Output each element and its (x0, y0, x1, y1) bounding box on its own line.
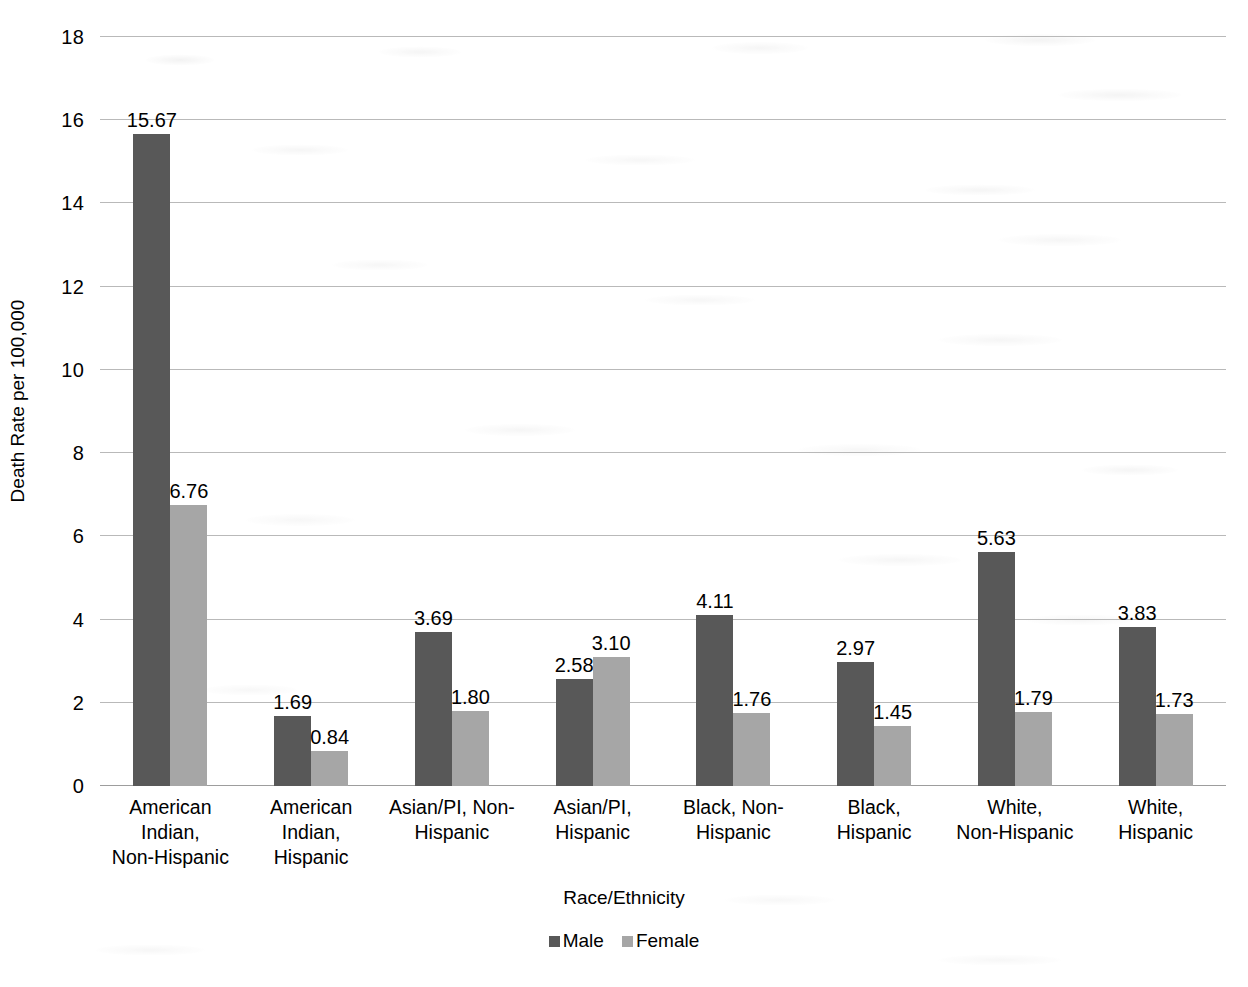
bar-male: 2.58 (556, 679, 593, 786)
chart-legend: MaleFemale (0, 930, 1248, 952)
bar-female: 0.84 (311, 751, 348, 786)
gridline-0 (100, 785, 1226, 786)
gridline-2 (100, 702, 1226, 703)
bar-group: 5.631.79 (978, 37, 1052, 786)
grouped-bar-chart: Death Rate per 100,000 024681012141618 1… (0, 0, 1248, 987)
bar-group: 15.676.76 (133, 37, 207, 786)
bar-female: 1.80 (452, 711, 489, 786)
y-tick-6: 6 (73, 525, 84, 548)
bar-male: 5.63 (978, 552, 1015, 786)
bar-value-label: 15.67 (127, 110, 177, 130)
bar-value-label: 0.84 (310, 727, 349, 747)
y-tick-14: 14 (61, 192, 84, 215)
bar-group: 1.690.84 (274, 37, 348, 786)
bar-male: 4.11 (696, 615, 733, 786)
legend-swatch-icon (622, 936, 633, 947)
x-tick-label: American Indian, Hispanic (241, 795, 382, 870)
x-axis-title: Race/Ethnicity (0, 887, 1248, 909)
bar-group: 2.583.10 (556, 37, 630, 786)
y-tick-8: 8 (73, 442, 84, 465)
bar-female: 6.76 (170, 505, 207, 786)
bar-group: 3.691.80 (415, 37, 489, 786)
legend-item-male[interactable]: Male (549, 930, 604, 952)
bar-male: 2.97 (837, 662, 874, 786)
gridline-12 (100, 286, 1226, 287)
y-tick-0: 0 (73, 775, 84, 798)
bar-value-label: 1.45 (873, 702, 912, 722)
bar-female: 1.45 (874, 726, 911, 786)
bar-male: 3.69 (415, 632, 452, 786)
bar-male: 15.67 (133, 134, 170, 786)
x-tick-label: Black, Non- Hispanic (663, 795, 804, 845)
bar-male: 1.69 (274, 716, 311, 786)
bar-female: 3.10 (593, 657, 630, 786)
bar-value-label: 1.69 (273, 692, 312, 712)
bar-value-label: 1.76 (732, 689, 771, 709)
gridline-16 (100, 119, 1226, 120)
bar-group: 4.111.76 (696, 37, 770, 786)
y-tick-4: 4 (73, 608, 84, 631)
y-tick-10: 10 (61, 358, 84, 381)
x-tick-label: White, Non-Hispanic (945, 795, 1086, 845)
legend-item-female[interactable]: Female (622, 930, 699, 952)
bar-value-label: 3.69 (414, 608, 453, 628)
gridline-18 (100, 36, 1226, 37)
y-tick-18: 18 (61, 26, 84, 49)
x-tick-label: Asian/PI, Hispanic (522, 795, 663, 845)
y-tick-2: 2 (73, 691, 84, 714)
legend-swatch-icon (549, 936, 560, 947)
bar-value-label: 2.97 (836, 638, 875, 658)
bar-group: 3.831.73 (1119, 37, 1193, 786)
bar-value-label: 3.83 (1118, 603, 1157, 623)
bar-female: 1.76 (733, 713, 770, 786)
gridline-8 (100, 452, 1226, 453)
bar-female: 1.79 (1015, 712, 1052, 786)
legend-label: Male (563, 930, 604, 952)
bar-group: 2.971.45 (837, 37, 911, 786)
y-axis-tick-labels: 024681012141618 (0, 0, 100, 987)
y-tick-12: 12 (61, 275, 84, 298)
x-tick-label: Black, Hispanic (804, 795, 945, 845)
bar-male: 3.83 (1119, 627, 1156, 786)
gridline-6 (100, 535, 1226, 536)
bar-value-label: 6.76 (169, 481, 208, 501)
bar-value-label: 2.58 (555, 655, 594, 675)
bar-value-label: 5.63 (977, 528, 1016, 548)
x-tick-label: Asian/PI, Non- Hispanic (382, 795, 523, 845)
x-tick-label: White, Hispanic (1085, 795, 1226, 845)
bar-value-label: 1.80 (451, 687, 490, 707)
bar-value-label: 4.11 (696, 591, 733, 611)
bar-value-label: 3.10 (592, 633, 631, 653)
gridline-10 (100, 369, 1226, 370)
x-axis-tick-labels: American Indian, Non-HispanicAmerican In… (100, 795, 1226, 890)
gridline-14 (100, 202, 1226, 203)
plot-area: 15.676.761.690.843.691.802.583.104.111.7… (100, 37, 1226, 786)
y-tick-16: 16 (61, 109, 84, 132)
gridline-4 (100, 619, 1226, 620)
bar-value-label: 1.79 (1014, 688, 1053, 708)
bar-female: 1.73 (1156, 714, 1193, 786)
legend-label: Female (636, 930, 699, 952)
bar-value-label: 1.73 (1155, 690, 1194, 710)
x-tick-label: American Indian, Non-Hispanic (100, 795, 241, 870)
